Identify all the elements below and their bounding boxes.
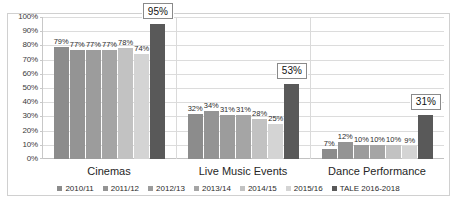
- legend-item[interactable]: 2012/13: [148, 184, 185, 193]
- bar[interactable]: [150, 24, 165, 159]
- y-axis-tick-label: 60%: [23, 70, 38, 78]
- y-axis: 100%90%80%70%60%50%40%30%20%10%0%: [8, 17, 41, 159]
- plot-wrapper: 100%90%80%70%60%50%40%30%20%10%0% 79%77%…: [8, 14, 449, 162]
- bar[interactable]: [370, 145, 385, 159]
- bar-value-label-highlight: 95%: [143, 3, 173, 19]
- bar-slot: 31%: [236, 17, 251, 159]
- bar[interactable]: [268, 124, 283, 160]
- bar[interactable]: [118, 48, 133, 159]
- bar-slot: 9%: [402, 17, 417, 159]
- bar-slot: 10%: [370, 17, 385, 159]
- bar-value-label: 77%: [86, 41, 101, 49]
- bar[interactable]: [322, 149, 337, 159]
- bar-slot: 34%: [204, 17, 219, 159]
- legend-swatch-icon: [103, 186, 108, 191]
- y-axis-tick-label: 70%: [23, 56, 38, 64]
- bar[interactable]: [252, 119, 267, 159]
- bar-slot: 77%: [86, 17, 101, 159]
- bar[interactable]: [54, 47, 69, 159]
- bar-slot: 31%: [220, 17, 235, 159]
- legend-item[interactable]: TALE 2016-2018: [332, 184, 400, 193]
- bar-value-label: 28%: [252, 110, 267, 118]
- bar-value-label-highlight: 53%: [277, 63, 307, 79]
- bar[interactable]: [188, 114, 203, 159]
- bar[interactable]: [134, 54, 149, 159]
- category-label: Dance Performance: [310, 162, 444, 180]
- y-axis-tick-label: 50%: [23, 84, 38, 92]
- y-axis-tick-label: 0%: [27, 155, 38, 163]
- bar[interactable]: [418, 115, 433, 159]
- bar-value-label: 10%: [386, 136, 401, 144]
- bar[interactable]: [204, 111, 219, 159]
- legend-item[interactable]: 2010/11: [57, 184, 93, 193]
- bar-value-label: 79%: [54, 38, 69, 46]
- bar[interactable]: [236, 115, 251, 159]
- category-label: Live Music Events: [176, 162, 310, 180]
- legend-item[interactable]: 2015/16: [286, 184, 323, 193]
- y-axis-tick-label: 40%: [23, 98, 38, 106]
- bar-slot: 10%: [386, 17, 401, 159]
- bar-slot: 77%: [102, 17, 117, 159]
- bar-value-label-highlight: 31%: [411, 94, 441, 110]
- legend-label: 2013/14: [202, 184, 231, 193]
- bar-slot: 10%: [354, 17, 369, 159]
- bar[interactable]: [354, 145, 369, 159]
- bar-slot: 53%: [284, 17, 299, 159]
- bar-value-label: 78%: [118, 39, 133, 47]
- bar-value-label: 74%: [134, 45, 149, 53]
- bar[interactable]: [338, 142, 353, 159]
- legend-swatch-icon: [194, 186, 199, 191]
- bar-value-label: 31%: [220, 106, 235, 114]
- legend-item[interactable]: 2013/14: [194, 184, 231, 193]
- bar-slot: 25%: [268, 17, 283, 159]
- bar-group: 32%34%31%31%28%25%53%: [177, 17, 311, 159]
- bar-group-bars: 79%77%77%77%78%74%95%: [54, 17, 166, 159]
- bar-value-label: 34%: [204, 102, 219, 110]
- legend-swatch-icon: [148, 186, 153, 191]
- legend-swatch-icon: [57, 186, 62, 191]
- legend-label: 2014/15: [248, 184, 277, 193]
- bar-slot: 32%: [188, 17, 203, 159]
- legend-swatch-icon: [240, 186, 245, 191]
- legend-label: 2011/12: [111, 184, 139, 193]
- bar-value-label: 77%: [70, 41, 85, 49]
- y-axis-tick-label: 20%: [23, 127, 38, 135]
- chart-legend: 2010/112011/122012/132013/142014/152015/…: [8, 180, 449, 196]
- plot-area: 79%77%77%77%78%74%95%32%34%31%31%28%25%5…: [42, 17, 444, 159]
- bar[interactable]: [386, 145, 401, 159]
- y-axis-tick-label: 10%: [23, 141, 38, 149]
- bar[interactable]: [70, 50, 85, 159]
- bar[interactable]: [102, 50, 117, 159]
- bar-slot: 95%: [150, 17, 165, 159]
- bar-group-bars: 32%34%31%31%28%25%53%: [188, 17, 300, 159]
- bar-slot: 28%: [252, 17, 267, 159]
- bar-group-bars: 7%12%10%10%10%9%31%: [322, 17, 434, 159]
- legend-item[interactable]: 2014/15: [240, 184, 277, 193]
- bar-value-label: 31%: [236, 106, 251, 114]
- bar[interactable]: [86, 50, 101, 159]
- y-axis-tick-label: 100%: [18, 13, 38, 21]
- bar[interactable]: [220, 115, 235, 159]
- bar-group: 7%12%10%10%10%9%31%: [311, 17, 444, 159]
- bar-value-label: 25%: [268, 115, 283, 123]
- legend-label: 2012/13: [156, 184, 185, 193]
- bar-value-label: 7%: [324, 140, 335, 148]
- bar-slot: 31%: [418, 17, 433, 159]
- bar[interactable]: [402, 146, 417, 159]
- y-axis-tick-label: 80%: [23, 41, 38, 49]
- category-axis: CinemasLive Music EventsDance Performanc…: [42, 162, 444, 180]
- legend-swatch-icon: [332, 186, 337, 191]
- bar-value-label: 10%: [354, 136, 369, 144]
- bar-slot: 7%: [322, 17, 337, 159]
- y-axis-tick-label: 90%: [23, 27, 38, 35]
- legend-label: 2010/11: [65, 184, 93, 193]
- legend-label: 2015/16: [294, 184, 323, 193]
- bar-slot: 74%: [134, 17, 149, 159]
- bar[interactable]: [284, 84, 299, 159]
- legend-swatch-icon: [286, 186, 291, 191]
- y-axis-tick-label: 30%: [23, 112, 38, 120]
- bar-groups: 79%77%77%77%78%74%95%32%34%31%31%28%25%5…: [43, 17, 444, 159]
- chart-frame: 100%90%80%70%60%50%40%30%20%10%0% 79%77%…: [7, 13, 450, 196]
- legend-item[interactable]: 2011/12: [103, 184, 139, 193]
- bar-value-label: 10%: [370, 136, 385, 144]
